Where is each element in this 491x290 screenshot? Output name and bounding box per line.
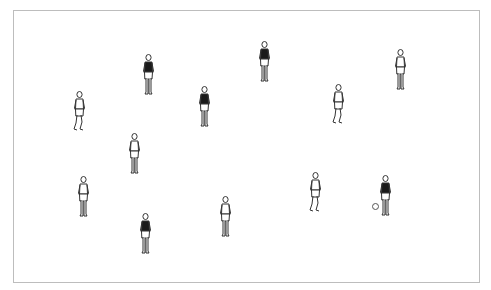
person-icon (126, 133, 142, 175)
person-icon (377, 175, 393, 217)
person-icon (256, 41, 272, 83)
person-icon (217, 196, 233, 238)
person-icon (392, 49, 408, 91)
player-figure-3 (392, 49, 408, 91)
player-figure-2 (256, 41, 272, 83)
player-figure-11 (307, 172, 323, 214)
player-figure-5 (196, 86, 212, 128)
soccer-ball (372, 203, 379, 210)
player-figure-10 (217, 196, 233, 238)
person-icon (75, 176, 91, 218)
player-figure-7 (126, 133, 142, 175)
player-figure-4 (71, 91, 87, 133)
person-icon (140, 54, 156, 96)
person-icon (196, 86, 212, 128)
player-figure-1 (140, 54, 156, 96)
player-figure-9 (137, 213, 153, 255)
player-figure-12 (377, 175, 393, 217)
player-figure-6 (330, 84, 346, 126)
person-icon (330, 84, 346, 126)
person-icon (137, 213, 153, 255)
person-icon (71, 91, 87, 133)
field-frame (13, 10, 480, 283)
player-figure-8 (75, 176, 91, 218)
person-icon (307, 172, 323, 214)
